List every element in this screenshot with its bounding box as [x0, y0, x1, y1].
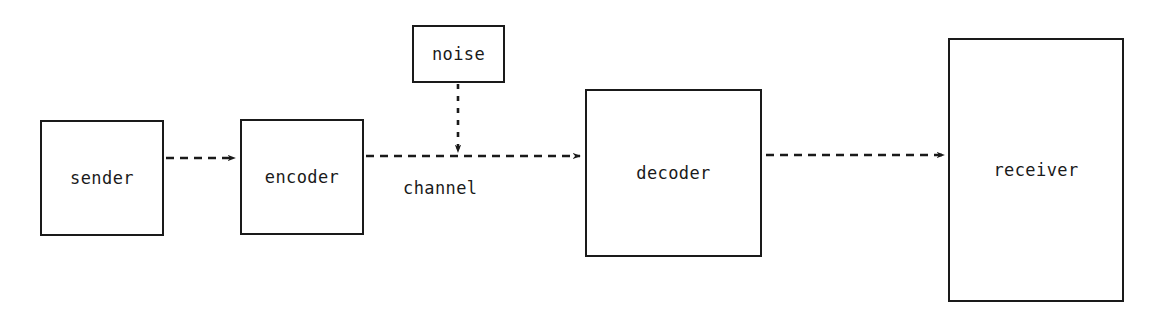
edge-label-channel: channel — [403, 178, 477, 198]
node-receiver[interactable]: receiver — [948, 38, 1124, 302]
node-sender-label: sender — [70, 168, 134, 188]
node-decoder[interactable]: decoder — [585, 89, 762, 257]
diagram-canvas: sender encoder noise decoder receiver ch… — [0, 0, 1165, 323]
node-noise-label: noise — [432, 44, 485, 64]
node-encoder[interactable]: encoder — [240, 119, 364, 235]
node-decoder-label: decoder — [636, 163, 710, 183]
node-encoder-label: encoder — [265, 167, 339, 187]
node-receiver-label: receiver — [993, 160, 1078, 180]
node-sender[interactable]: sender — [40, 120, 164, 236]
node-noise[interactable]: noise — [412, 25, 505, 83]
